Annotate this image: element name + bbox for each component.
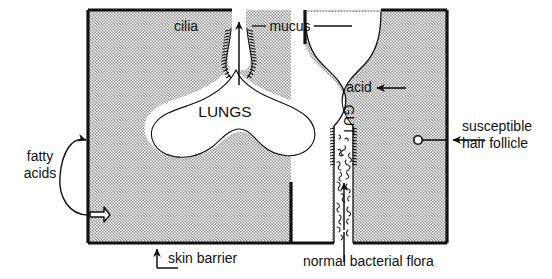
acid-label: acid [346,79,372,95]
hair-follicle-opening [414,136,422,144]
fatty-acids-label-line2: acids [24,165,57,181]
fatty-acids-label-line1: fatty [27,148,53,164]
lungs-label: LUNGS [198,103,251,120]
susceptible-label-line2: hair follicle [462,135,528,151]
susceptible-label-line1: susceptible [462,118,532,134]
normal-flora-label: normal bacterial flora [303,253,434,269]
skin-barrier-label: skin barrier [168,250,238,266]
mucus-label: mucus [269,18,310,34]
gut-label: GUT [341,105,357,136]
host-defence-diagram: LUNGS cilia [0,0,552,279]
cilia-label: cilia [174,18,198,34]
